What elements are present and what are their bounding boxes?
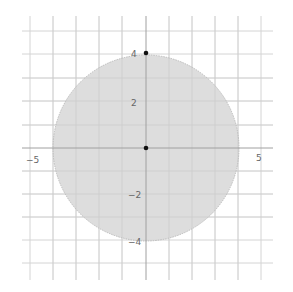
x-tick-label-neg5: −5 bbox=[26, 155, 39, 165]
x-tick-label-5: 5 bbox=[256, 153, 262, 163]
y-tick-label-4: 4 bbox=[131, 49, 137, 59]
center-point bbox=[144, 146, 149, 151]
y-tick-label-neg2: −2 bbox=[128, 190, 141, 200]
y-tick-label-neg4: −4 bbox=[128, 237, 142, 247]
coordinate-plane: −5 5 4 2 −2 −4 bbox=[0, 0, 293, 292]
top-point bbox=[144, 51, 149, 56]
y-tick-label-2: 2 bbox=[131, 98, 137, 108]
